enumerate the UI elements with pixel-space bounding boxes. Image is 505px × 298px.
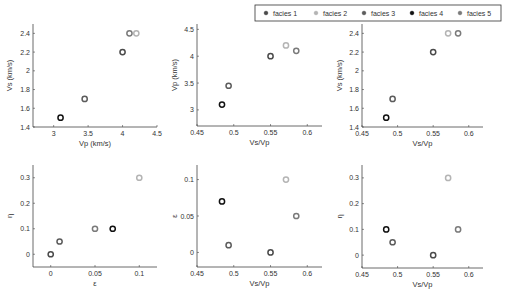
x-tick-label: 0.1 xyxy=(134,270,144,277)
x-tick-label: 0 xyxy=(49,270,53,277)
x-tick-label: 4 xyxy=(121,130,125,137)
legend: facies 1facies 2facies 3facies 4facies 5 xyxy=(255,5,501,21)
x-tick-label: 0.55 xyxy=(264,270,278,277)
y-tick-label: 0.1 xyxy=(184,176,194,183)
x-tick-label: 0.6 xyxy=(302,129,312,136)
legend-label: facies 1 xyxy=(273,10,297,17)
data-point-facies-4 xyxy=(384,227,389,232)
y-axis-label: Vs (km/s) xyxy=(5,59,14,91)
data-point-facies-2 xyxy=(137,175,142,180)
y-tick-label: 3 xyxy=(190,106,194,113)
x-tick-label: 0.5 xyxy=(229,270,239,277)
x-axis-label: Vs/Vp xyxy=(249,138,269,147)
scatter-panel-5: 0.450.50.550.600.050.1Vs/Vpε xyxy=(170,165,322,288)
x-tick-label: 0.55 xyxy=(264,129,278,136)
y-tick-label: 0.05 xyxy=(180,213,194,220)
x-tick-label: 0.55 xyxy=(426,271,440,278)
data-point-facies-5 xyxy=(294,48,299,53)
data-point-facies-2 xyxy=(446,31,451,36)
x-tick-label: 0.5 xyxy=(393,130,403,137)
y-tick-label: 0 xyxy=(355,252,359,259)
y-tick-label: 0 xyxy=(26,251,30,258)
figure: 33.544.51.41.61.822.22.4Vp (km/s)Vs (km/… xyxy=(0,0,505,298)
y-tick-label: 1.4 xyxy=(20,124,30,131)
x-axis-label: ε xyxy=(93,279,97,288)
y-axis-label: Vp (km/s) xyxy=(170,58,179,91)
data-point-facies-4 xyxy=(219,102,224,107)
legend-label: facies 5 xyxy=(467,10,491,17)
y-tick-label: 0.2 xyxy=(20,200,30,207)
data-point-facies-2 xyxy=(283,177,288,182)
x-tick-label: 4.5 xyxy=(152,130,162,137)
data-point-facies-4 xyxy=(110,226,115,231)
data-point-facies-1 xyxy=(120,49,125,54)
data-point-facies-2 xyxy=(446,175,451,180)
y-tick-label: 4 xyxy=(190,53,194,60)
y-tick-label: 1.8 xyxy=(349,86,359,93)
y-tick-label: 2 xyxy=(355,67,359,74)
data-point-facies-1 xyxy=(431,49,436,54)
y-tick-label: 1.8 xyxy=(20,86,30,93)
x-tick-label: 0.45 xyxy=(190,270,204,277)
x-tick-label: 0.45 xyxy=(355,130,369,137)
x-tick-label: 3.5 xyxy=(83,130,93,137)
data-point-facies-4 xyxy=(219,199,224,204)
data-point-facies-3 xyxy=(226,243,231,248)
y-tick-label: 3.5 xyxy=(184,80,194,87)
x-tick-label: 0.45 xyxy=(190,129,204,136)
data-point-facies-3 xyxy=(82,96,87,101)
x-axis-label: Vp (km/s) xyxy=(79,139,112,148)
data-point-facies-1 xyxy=(268,250,273,255)
scatter-panel-3: 0.450.50.550.61.41.61.822.22.4Vs/VpVs (k… xyxy=(335,24,483,148)
x-tick-label: 0.05 xyxy=(88,270,102,277)
y-axis-label: ε xyxy=(170,214,179,218)
data-point-facies-1 xyxy=(431,253,436,258)
x-tick-label: 0.5 xyxy=(393,271,403,278)
legend-label: facies 4 xyxy=(419,10,443,17)
y-tick-label: 4.5 xyxy=(184,26,194,33)
y-tick-label: 0.3 xyxy=(349,174,359,181)
y-tick-label: 2.2 xyxy=(349,49,359,56)
scatter-panel-2: 0.450.50.550.633.544.5Vs/VpVp (km/s) xyxy=(170,24,322,147)
legend-label: facies 3 xyxy=(371,10,395,17)
data-point-facies-3 xyxy=(57,239,62,244)
legend-marker-icon xyxy=(264,11,268,15)
data-point-facies-5 xyxy=(92,226,97,231)
y-axis-label: η xyxy=(335,214,344,218)
data-point-facies-5 xyxy=(127,31,132,36)
legend-marker-icon xyxy=(314,11,318,15)
x-axis-label: Vs/Vp xyxy=(412,280,432,289)
y-tick-label: 2.2 xyxy=(20,49,30,56)
data-point-facies-1 xyxy=(268,54,273,59)
x-tick-label: 0.6 xyxy=(464,130,474,137)
data-point-facies-5 xyxy=(455,31,460,36)
x-tick-label: 3 xyxy=(52,130,56,137)
x-tick-label: 0.55 xyxy=(426,130,440,137)
x-tick-label: 0.6 xyxy=(302,270,312,277)
y-axis-label: η xyxy=(5,214,14,218)
scatter-panel-4: 00.050.100.10.20.3εη xyxy=(5,165,157,288)
y-tick-label: 1.6 xyxy=(20,105,30,112)
y-tick-label: 1.6 xyxy=(349,105,359,112)
scatter-panel-1: 33.544.51.41.61.822.22.4Vp (km/s)Vs (km/… xyxy=(5,24,162,148)
data-point-facies-3 xyxy=(390,240,395,245)
y-tick-label: 1.4 xyxy=(349,124,359,131)
legend-marker-icon xyxy=(410,11,414,15)
x-tick-label: 0.45 xyxy=(355,271,369,278)
data-point-facies-4 xyxy=(384,115,389,120)
y-tick-label: 2.4 xyxy=(20,30,30,37)
x-tick-label: 0.5 xyxy=(229,129,239,136)
data-point-facies-2 xyxy=(134,31,139,36)
data-point-facies-5 xyxy=(455,227,460,232)
scatter-panel-6: 0.450.50.550.600.10.20.3Vs/Vpη xyxy=(335,165,483,289)
y-tick-label: 0.2 xyxy=(349,200,359,207)
x-axis-label: Vs/Vp xyxy=(249,279,269,288)
legend-label: facies 2 xyxy=(323,10,347,17)
y-tick-label: 0.1 xyxy=(349,226,359,233)
y-tick-label: 0.3 xyxy=(20,174,30,181)
data-point-facies-4 xyxy=(58,115,63,120)
y-tick-label: 0 xyxy=(190,249,194,256)
legend-marker-icon xyxy=(458,11,462,15)
data-point-facies-3 xyxy=(390,96,395,101)
legend-marker-icon xyxy=(362,11,366,15)
